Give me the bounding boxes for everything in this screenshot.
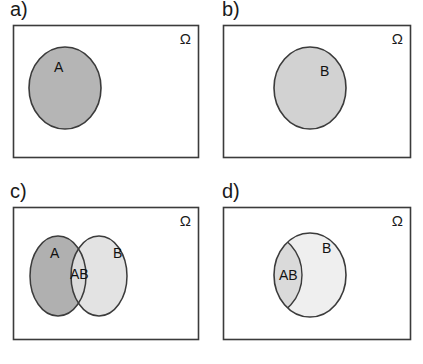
panel-c: c) Ω A B AB — [0, 182, 211, 364]
set-b-label: B — [320, 63, 329, 79]
panel-a: a) Ω A — [0, 0, 211, 182]
panel-c-graphic: Ω A B AB — [0, 182, 211, 364]
set-b-label: B — [322, 240, 331, 256]
intersection-label: AB — [70, 266, 89, 282]
omega-symbol-label: Ω — [180, 30, 191, 47]
panel-d: d) Ω B AB — [212, 182, 423, 364]
panel-b: b) Ω B — [212, 0, 423, 182]
panel-a-graphic: Ω A — [0, 0, 211, 182]
intersection-label: AB — [279, 267, 298, 283]
set-a-label: A — [50, 245, 60, 261]
set-a-label: A — [54, 59, 64, 75]
omega-symbol-label: Ω — [180, 212, 191, 229]
set-b-circle — [274, 47, 346, 129]
panel-b-graphic: Ω B — [212, 0, 423, 182]
venn-diagram-figure: a) Ω A b) Ω B c) Ω — [0, 0, 423, 364]
omega-symbol-label: Ω — [392, 30, 403, 47]
set-b-label: B — [113, 245, 122, 261]
omega-symbol-label: Ω — [392, 212, 403, 229]
panel-d-graphic: Ω B AB — [212, 182, 423, 364]
set-a-circle — [29, 47, 101, 129]
